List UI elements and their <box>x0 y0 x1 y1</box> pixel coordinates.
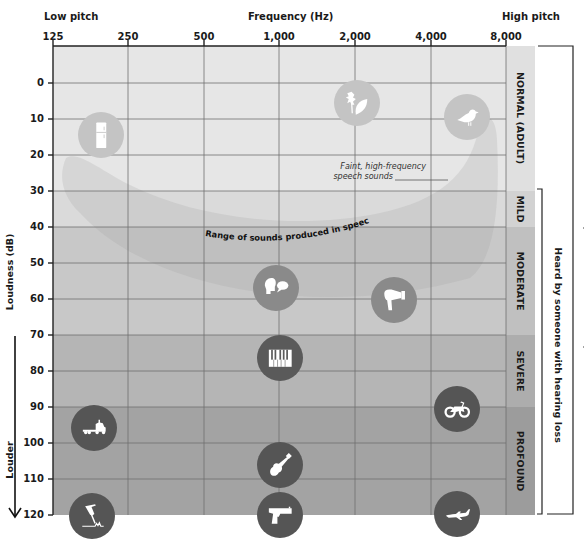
leaves-icon <box>334 80 380 126</box>
y-tick: 20 <box>18 149 44 160</box>
faint-sounds-annotation: Faint, high-frequency speech sounds <box>296 162 426 182</box>
hair-dryer-icon <box>371 277 417 323</box>
band-label-severe: SEVERE <box>515 351 526 392</box>
bird-icon <box>444 94 490 140</box>
band-label-mild: MILD <box>515 196 526 223</box>
faint-sounds-line2: speech sounds <box>296 172 426 182</box>
louder-label: Louder <box>4 441 15 478</box>
y-tick: 10 <box>18 113 44 124</box>
truck-icon <box>71 405 117 451</box>
y-tick: 0 <box>18 77 44 88</box>
piano-icon <box>257 335 303 381</box>
y-tick: 60 <box>18 293 44 304</box>
y-tick: 120 <box>18 509 44 520</box>
y-tick: 50 <box>18 257 44 268</box>
band-label-moderate: MODERATE <box>515 252 526 311</box>
hearing-loss-bracket-label: Heard by someone with hearing loss <box>553 247 564 443</box>
motorcycle-icon <box>434 386 480 432</box>
jet-plane-icon <box>434 491 480 537</box>
y-tick: 30 <box>18 185 44 196</box>
y-tick: 110 <box>18 473 44 484</box>
faint-sounds-line1: Faint, high-frequency <box>296 162 426 172</box>
band-label-profound: PROFOUND <box>515 431 526 491</box>
conversation-icon <box>253 265 299 311</box>
band-label-normal: NORMAL (ADULT) <box>515 72 526 164</box>
y-tick: 70 <box>18 329 44 340</box>
jackhammer-icon <box>69 493 115 539</box>
refrigerator-icon <box>78 112 124 158</box>
y-tick: 40 <box>18 221 44 232</box>
guitar-icon <box>257 442 303 488</box>
louder-arrow-icon <box>9 336 21 517</box>
hearing-loss-bracket <box>537 189 542 514</box>
y-axis-label: Loudness (dB) <box>4 234 15 311</box>
y-tick: 80 <box>18 365 44 376</box>
y-tick: 100 <box>18 437 44 448</box>
handgun-icon <box>257 492 303 538</box>
y-tick: 90 <box>18 401 44 412</box>
